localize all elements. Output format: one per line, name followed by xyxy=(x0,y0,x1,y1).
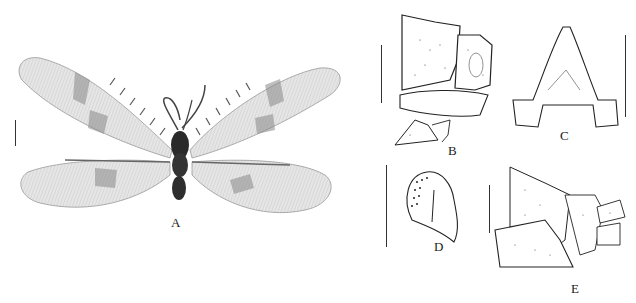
panel-c-structure-dorsal: C xyxy=(508,15,636,140)
panel-label-e: E xyxy=(571,281,579,297)
panel-label-a: A xyxy=(171,215,180,231)
insect-habitus-illustration xyxy=(0,0,350,303)
structure-c-illustration xyxy=(508,15,636,140)
terminalia-b-illustration xyxy=(380,0,515,165)
panel-label-c: C xyxy=(560,128,569,144)
panel-b-terminalia-lateral: B xyxy=(380,0,515,165)
panel-label-d: D xyxy=(434,239,443,255)
panel-d-detail: D xyxy=(382,160,477,265)
panel-label-b: B xyxy=(448,143,457,159)
terminalia-e-illustration xyxy=(485,155,636,303)
panel-e-terminalia-female: E xyxy=(485,155,636,303)
panel-a-habitus: A xyxy=(0,0,350,303)
detail-d-illustration xyxy=(382,160,477,265)
